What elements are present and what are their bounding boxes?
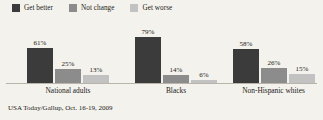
bar-rect — [163, 75, 189, 83]
legend-swatch-get-worse — [130, 4, 138, 12]
bar-rect — [83, 75, 109, 83]
category-label-national-adults: National adults — [22, 86, 114, 96]
bar-value-label: 26% — [268, 59, 281, 67]
bar-rect — [233, 49, 259, 83]
bar-blacks-not-change: 14% — [163, 16, 189, 83]
legend-item-not-change: Not change — [69, 4, 114, 12]
bar-group-national-adults: 61% 25% 13% — [22, 16, 114, 83]
legend-item-get-worse: Get worse — [130, 4, 172, 12]
bar-value-label: 14% — [170, 66, 183, 74]
bar-group-blacks: 79% 14% 6% — [130, 16, 222, 83]
bar-rect — [27, 48, 53, 83]
bar-blacks-get-worse: 6% — [191, 16, 217, 83]
bar-value-label: 6% — [199, 71, 208, 79]
bar-national-adults-get-worse: 13% — [83, 16, 109, 83]
bar-value-label: 15% — [296, 65, 309, 73]
bar-value-label: 61% — [34, 39, 47, 47]
source-note: USA Today/Gallup, Oct. 16-19, 2009 — [8, 104, 113, 113]
x-axis-baseline — [6, 83, 317, 84]
bar-national-adults-get-better: 61% — [27, 16, 53, 83]
bar-blacks-get-better: 79% — [135, 16, 161, 83]
bar-value-label: 25% — [62, 60, 75, 68]
bar-non-hispanic-whites-not-change: 26% — [261, 16, 287, 83]
category-label-non-hispanic-whites: Non-Hispanic whites — [224, 86, 323, 96]
legend-label-get-better: Get better — [24, 4, 53, 12]
bar-non-hispanic-whites-get-better: 58% — [233, 16, 259, 83]
grouped-bar-chart: Get better Not change Get worse 61% 25% … — [0, 0, 323, 120]
legend-label-get-worse: Get worse — [142, 4, 172, 12]
bar-rect — [55, 69, 81, 84]
bar-rect — [289, 74, 315, 83]
legend-label-not-change: Not change — [81, 4, 114, 12]
legend-swatch-not-change — [69, 4, 77, 12]
plot-area: 61% 25% 13% 79% 14% 6% — [0, 16, 323, 84]
bar-group-non-hispanic-whites: 58% 26% 15% — [228, 16, 320, 83]
category-axis-labels: National adults Blacks Non-Hispanic whit… — [0, 86, 323, 98]
legend-swatch-get-better — [12, 4, 20, 12]
category-label-blacks: Blacks — [130, 86, 222, 96]
bar-rect — [261, 68, 287, 83]
chart-legend: Get better Not change Get worse — [12, 2, 312, 14]
bar-value-label: 13% — [90, 66, 103, 74]
bar-rect — [135, 37, 161, 83]
bar-non-hispanic-whites-get-worse: 15% — [289, 16, 315, 83]
bar-national-adults-not-change: 25% — [55, 16, 81, 83]
legend-item-get-better: Get better — [12, 4, 53, 12]
bar-value-label: 79% — [142, 28, 155, 36]
bar-value-label: 58% — [240, 40, 253, 48]
